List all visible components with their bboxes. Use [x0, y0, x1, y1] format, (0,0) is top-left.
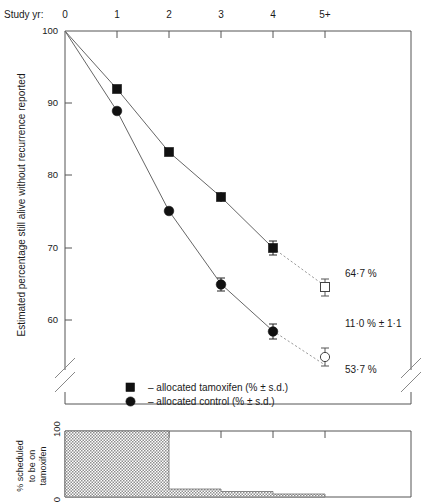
series-tamoxifen-dashed-segment [273, 248, 325, 286]
data-point-control-yr4 [268, 324, 278, 339]
legend-marker-circle-icon [126, 397, 135, 406]
y-tick-label-90: 90 [47, 97, 58, 108]
series-tamoxifen [65, 31, 330, 296]
y-axis-title: Estimated percentage still alive without… [16, 74, 27, 337]
y-tick-label-80: 80 [47, 169, 58, 180]
x-axis-title: Study yr: [4, 9, 43, 20]
legend-label-control: – allocated control (% ± s.d.) [148, 396, 275, 407]
data-point-tamoxifen-yr4 [269, 241, 278, 255]
schedule-area-path [65, 431, 325, 497]
main-plot-panel: Study yr: 0 1 2 3 4 5+ 100 [4, 9, 421, 407]
tamoxifen-schedule-steps [65, 431, 325, 497]
series-control-dashed-segment [273, 331, 325, 365]
data-point-control-yr1 [112, 106, 122, 116]
series-control-line [65, 31, 273, 331]
data-point-tamoxifen-yr2 [165, 148, 174, 157]
annotation-control-final: 53·7 % [345, 364, 377, 375]
data-point-control-yr2 [164, 206, 174, 216]
x-tick-label-2: 2 [166, 9, 172, 20]
data-point-tamoxifen-yr3 [217, 192, 226, 202]
subpanel-y-axis-title-line3: tamoxifen [38, 446, 48, 485]
x-tick-label-0: 0 [62, 9, 68, 20]
series-control [65, 31, 330, 366]
data-point-tamoxifen-yr1 [113, 85, 122, 94]
legend-marker-square-icon [126, 383, 135, 392]
y-tick-label-60: 60 [47, 314, 58, 325]
survival-chart-figure: Study yr: 0 1 2 3 4 5+ 100 [0, 0, 425, 504]
subpanel-y-axis-title-line2: to be on [27, 450, 37, 483]
legend: – allocated tamoxifen (% ± s.d.) – alloc… [126, 382, 288, 407]
x-tick-label-5: 5+ [319, 9, 331, 20]
tamoxifen-schedule-panel: 100 0 % scheduled to be on tamoxifen [15, 421, 411, 502]
annotation-difference: 11·0 % ± 1·1 [345, 318, 402, 329]
subpanel-y-tick-label-100: 100 [51, 421, 62, 437]
subpanel-y-tick-label-0: 0 [51, 497, 62, 502]
legend-label-tamoxifen: – allocated tamoxifen (% ± s.d.) [148, 382, 288, 393]
x-tick-label-1: 1 [114, 9, 120, 20]
y-tick-label-70: 70 [47, 242, 58, 253]
x-tick-label-3: 3 [218, 9, 224, 20]
data-point-tamoxifen-yr5plus [321, 279, 330, 296]
annotation-tamoxifen-final: 64·7 % [345, 268, 377, 279]
subpanel-y-axis-title-line1: % scheduled [15, 440, 25, 492]
x-tick-label-4: 4 [270, 9, 276, 20]
y-tick-label-100: 100 [42, 25, 58, 36]
